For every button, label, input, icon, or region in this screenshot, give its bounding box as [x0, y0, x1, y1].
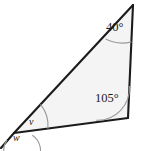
geometry-figure: 40° 105° v w [0, 0, 141, 151]
angle-label-exterior-w: w [13, 133, 20, 143]
angle-label-apex: 40° [106, 21, 124, 34]
angle-label-interior-v: v [29, 117, 33, 127]
angle-label-bottom-right: 105° [95, 92, 119, 105]
